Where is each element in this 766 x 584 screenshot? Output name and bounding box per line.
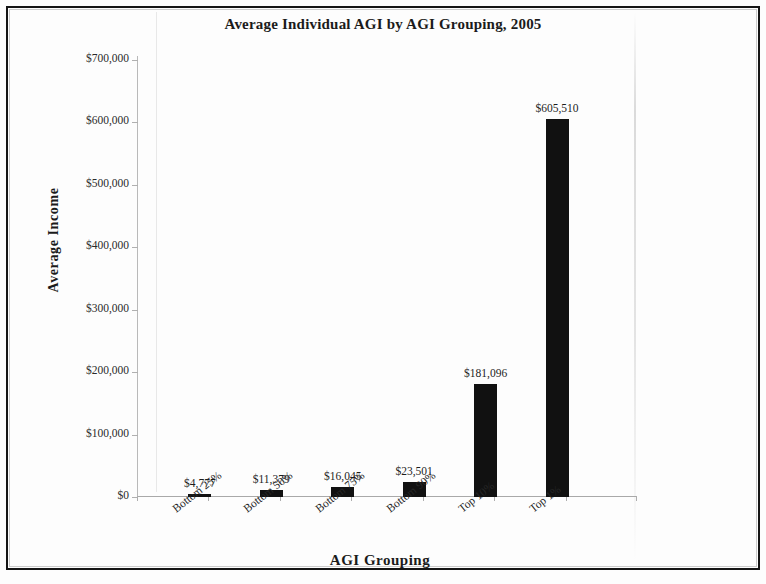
x-axis-tick [636, 496, 637, 501]
y-axis-tick-label: $500,000 [39, 177, 129, 189]
y-axis-tick-label: $400,000 [39, 239, 129, 251]
y-axis-tick [132, 435, 138, 436]
x-axis-title: AGI Grouping [140, 552, 620, 569]
y-axis-tick-label: $100,000 [39, 427, 129, 439]
y-axis-tick [132, 310, 138, 311]
bar-value-label: $181,096 [440, 367, 532, 379]
chart-title: Average Individual AGI by AGI Grouping, … [0, 16, 766, 33]
y-axis-tick [132, 247, 138, 248]
bar[interactable] [474, 384, 497, 497]
bar-value-label: $605,510 [511, 102, 603, 114]
y-axis-tick [132, 60, 138, 61]
y-axis-tick [132, 372, 138, 373]
plot-area: $0$100,000$200,000$300,000$400,000$500,0… [137, 60, 637, 497]
y-axis-tick [132, 185, 138, 186]
x-axis-category-label: Bottom 25% [170, 469, 223, 514]
y-axis-tick-label: $300,000 [39, 302, 129, 314]
y-axis-tick-label: $200,000 [39, 364, 129, 376]
y-axis-tick-label: $600,000 [39, 114, 129, 126]
x-axis-tick [137, 496, 138, 501]
y-axis-tick-label: $700,000 [39, 52, 129, 64]
y-axis-tick [132, 122, 138, 123]
y-axis-tick-label: $0 [39, 489, 129, 501]
bar-value-label: $23,501 [368, 465, 460, 477]
chart-page: Average Individual AGI by AGI Grouping, … [0, 0, 766, 584]
bar[interactable] [546, 119, 569, 497]
